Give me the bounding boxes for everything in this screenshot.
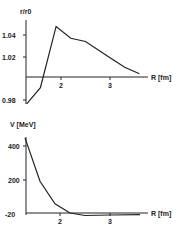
x-axis-label: R [fm] [151,74,171,82]
x-tick: 2 [58,218,62,225]
x-tick: 3 [108,218,112,225]
y-tick: 200 [8,177,20,184]
data-line [25,138,140,216]
y-axis-label: V [MeV] [10,121,36,129]
y-tick: -20 [5,211,15,218]
y-axis-label: r/r0 [20,8,31,15]
x-tick: 3 [108,82,112,89]
y-tick: 1.04 [2,32,16,39]
figure: r/r0 1.04 1.02 0.98 2 3 R [fm] V [MeV] 4… [0,0,180,235]
y-tick: 400 [8,143,20,150]
y-tick: 1.02 [2,54,16,61]
x-axis-label: R [fm] [151,210,171,218]
x-tick: 2 [59,82,63,89]
chart-top: r/r0 1.04 1.02 0.98 2 3 R [fm] [2,8,171,104]
chart-bottom: V [MeV] 400 200 -20 2 3 R [fm] [5,121,171,225]
data-line [27,26,140,103]
y-tick: 0.98 [2,97,16,104]
